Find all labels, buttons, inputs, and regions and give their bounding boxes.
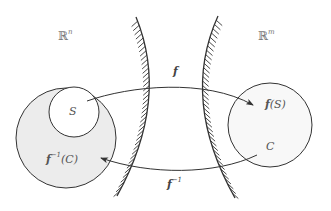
image-arg: (S): [270, 98, 286, 111]
forward-map-arrow: [87, 87, 253, 105]
inverse-map-label: f−1: [167, 177, 182, 190]
image-label: f(S): [265, 99, 286, 110]
codomain-space-label: ℝm: [258, 29, 275, 42]
inverse-map-arrow: [101, 155, 257, 170]
domain-space-label: ℝn: [58, 29, 73, 42]
forward-map-label: f: [173, 66, 178, 77]
domain-space-exp: n: [68, 28, 73, 36]
inverse-map-exp: −1: [172, 176, 182, 184]
codomain-space-base: ℝ: [258, 29, 268, 43]
preimage-label: f−1(C): [46, 152, 78, 165]
left-boundary-hatched: [114, 17, 150, 197]
set-s-label: S: [69, 106, 77, 117]
preimage-exp: −1: [51, 151, 61, 159]
set-c-region: [228, 83, 312, 167]
set-c-label: C: [266, 141, 274, 152]
preimage-arg: (C): [61, 153, 78, 166]
domain-space-base: ℝ: [58, 29, 68, 43]
codomain-space-exp: m: [268, 28, 275, 36]
